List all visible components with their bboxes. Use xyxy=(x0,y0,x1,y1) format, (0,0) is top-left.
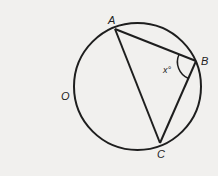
point-label-c: C xyxy=(157,148,165,160)
center-label-o: O xyxy=(61,90,70,102)
point-label-b: B xyxy=(201,55,208,67)
geometry-diagram: A B C O x° xyxy=(0,0,218,176)
circle-triangle-figure: A B C O x° xyxy=(0,0,218,176)
angle-label-x: x° xyxy=(162,65,172,75)
point-label-a: A xyxy=(107,14,115,26)
segment-ca xyxy=(115,29,160,143)
segment-ab xyxy=(115,29,196,61)
